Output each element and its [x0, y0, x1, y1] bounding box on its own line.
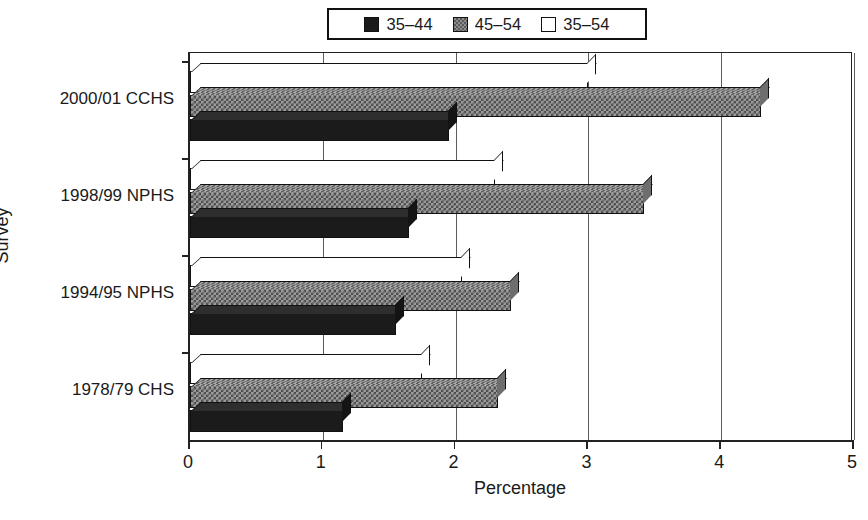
bar-top-face — [191, 184, 653, 193]
x-axis-tick-label: 1 — [316, 452, 326, 473]
chart-legend: 35–44 45–54 35–54 — [327, 8, 647, 40]
x-axis-tick-label: 0 — [183, 452, 193, 473]
black-swatch-icon — [364, 17, 379, 32]
bar-35-44-2000-01-CCHS[interactable] — [190, 119, 449, 141]
x-axis-tick — [321, 440, 323, 449]
bar-side-face — [461, 248, 470, 277]
bar-35-44-1994-95-NPHS[interactable] — [190, 313, 396, 335]
x-axis: 012345 — [188, 440, 852, 442]
plot-area — [188, 52, 852, 440]
legend-entry-35-54: 35–54 — [541, 15, 609, 34]
gridline — [854, 53, 855, 440]
y-axis-title: Survey — [0, 207, 13, 263]
y-axis-tick — [182, 61, 190, 63]
gray-checker-swatch-icon — [453, 17, 468, 32]
x-axis-tick-label: 3 — [581, 452, 591, 473]
bar-side-face — [510, 272, 519, 301]
bar-top-face — [191, 111, 458, 120]
bar-top-face — [191, 281, 520, 290]
bar-side-face — [643, 175, 652, 204]
bar-top-face — [191, 87, 770, 96]
x-axis-tick — [719, 440, 721, 449]
y-axis-tick — [182, 255, 190, 257]
x-axis-tick — [454, 440, 456, 449]
bar-side-face — [760, 78, 769, 107]
y-axis-label: 2000/01 CCHS — [60, 89, 174, 109]
x-axis-tick-label: 2 — [449, 452, 459, 473]
x-axis-tick-label: 4 — [714, 452, 724, 473]
bar-top-face — [191, 160, 504, 169]
bar-side-face — [497, 369, 506, 398]
bar-chart: 35–44 45–54 35–54 2000/01 CCHS1998/99 NP… — [0, 0, 868, 520]
x-axis-tick — [852, 440, 854, 449]
bar-35-44-1998-99-NPHS[interactable] — [190, 216, 409, 238]
bar-top-face — [191, 402, 352, 411]
x-axis-tick-label: 5 — [847, 452, 857, 473]
bar-group — [190, 150, 851, 247]
bar-side-face — [421, 345, 430, 374]
legend-entry-45-54: 45–54 — [453, 15, 521, 34]
y-axis-tick — [182, 158, 190, 160]
bar-side-face — [587, 54, 596, 83]
legend-label-35-44: 35–44 — [386, 15, 432, 34]
y-axis-category-labels: 2000/01 CCHS1998/99 NPHS1994/95 NPHS1978… — [0, 52, 182, 440]
bar-top-face — [191, 305, 405, 314]
bar-group — [190, 53, 851, 150]
y-axis-tick — [182, 352, 190, 354]
legend-label-35-54: 35–54 — [563, 15, 609, 34]
bar-top-face — [191, 257, 471, 266]
bar-top-face — [191, 378, 507, 387]
bar-group — [190, 247, 851, 344]
legend-label-45-54: 45–54 — [475, 15, 521, 34]
x-axis-tick — [188, 440, 190, 449]
bar-group — [190, 344, 851, 441]
bar-top-face — [191, 354, 431, 363]
bar-35-44-1978-79-CHS[interactable] — [190, 410, 343, 432]
y-axis-label: 1998/99 NPHS — [61, 186, 174, 206]
white-swatch-icon — [541, 17, 556, 32]
y-axis-label: 1978/79 CHS — [72, 380, 174, 400]
bar-top-face — [191, 63, 597, 72]
bar-top-face — [191, 208, 418, 217]
bar-side-face — [494, 151, 503, 180]
x-axis-title: Percentage — [188, 478, 852, 499]
y-axis-label: 1994/95 NPHS — [61, 283, 174, 303]
x-axis-tick — [586, 440, 588, 449]
legend-entry-35-44: 35–44 — [364, 15, 432, 34]
